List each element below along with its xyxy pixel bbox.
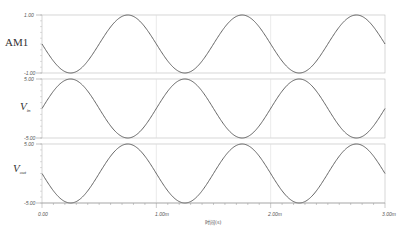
panel-label-vin: Vin [20,100,31,113]
p1-ymax-label: 1.00 [24,12,34,18]
panel-label-vout: Vout [13,162,27,175]
x-tick-0: 0.00 [38,211,48,217]
waveform-traces [42,15,385,203]
x-tick-1: 1.00m [155,211,169,217]
trace-vin [42,79,385,138]
x-tick-2: 2.00m [267,211,282,217]
vout-sub: out [20,170,27,175]
p3-ymin-label: -5.00 [24,200,36,206]
x-axis-label: 时间(s) [205,219,222,226]
trace-vout [42,144,385,203]
p2-ymax-label: 5.00 [24,76,34,82]
trace-am1 [42,15,385,73]
panel-label-am1: AM1 [5,36,28,48]
vin-sub: in [27,108,31,113]
x-tick-3: 3.00m [382,211,396,217]
waveform-chart: AM1 Vin Vout 1.00 -1.00 5.00 -5.00 5.00 … [0,0,407,231]
p3-ymax-label: 5.00 [24,141,34,147]
